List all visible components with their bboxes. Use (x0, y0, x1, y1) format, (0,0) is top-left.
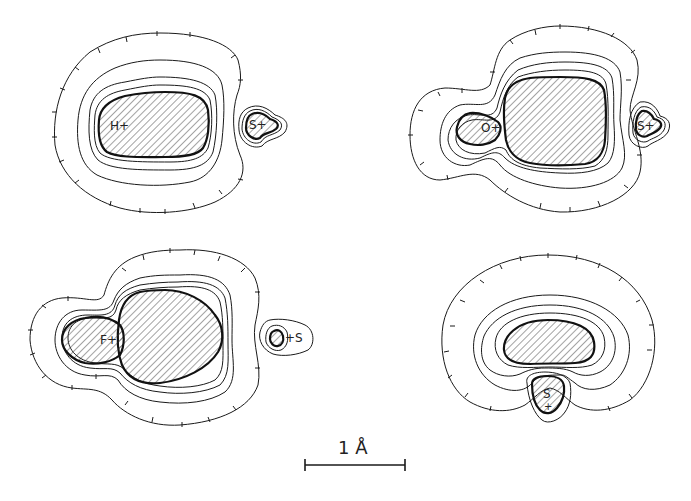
panel-os: O+ S+ (408, 24, 670, 212)
contour-figure: H+ S+ O+ S+ (0, 0, 691, 501)
panel-fs: F+ +S (28, 248, 313, 427)
hs-atom2-label: S+ (249, 118, 267, 132)
s-atom-label: S (543, 387, 551, 401)
os-hatched-core (504, 77, 606, 165)
panel-s: S + (442, 253, 655, 422)
hs-atom1-label: H+ (110, 119, 129, 133)
s-hatched-core (504, 320, 594, 364)
os-atom2-label: S+ (637, 119, 655, 133)
scale-bar: 1 Å (305, 437, 405, 471)
os-atom1-label: O+ (481, 121, 501, 135)
fs-hatched-core (118, 290, 223, 383)
fs-atom2-label: +S (285, 331, 303, 345)
scale-bar-label: 1 Å (338, 437, 368, 458)
fs-s-core (270, 330, 283, 346)
panel-hs: H+ S+ (52, 31, 287, 214)
fs-atom1-label: F+ (100, 333, 117, 347)
s-atom-marker: + (544, 401, 552, 412)
